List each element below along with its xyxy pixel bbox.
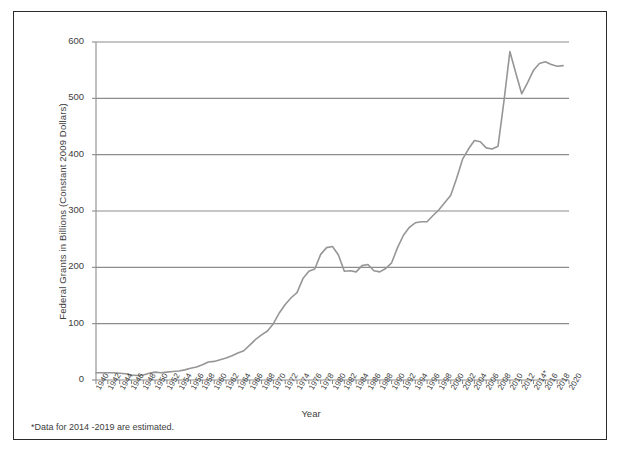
y-axis-title: Federal Grants in Billions (Constant 200… <box>57 57 68 367</box>
y-tick-marks-group <box>92 42 96 380</box>
chart-footnote: *Data for 2014 -2019 are estimated. <box>31 422 174 432</box>
chart-figure: 0100200300400500600 19401942194419461948… <box>13 11 607 440</box>
x-axis-title: Year <box>14 408 608 419</box>
y-tick-label: 0 <box>44 373 84 384</box>
y-tick-label: 600 <box>44 35 84 46</box>
gridlines-group <box>96 42 569 324</box>
federal-grants-series-line <box>96 52 563 376</box>
